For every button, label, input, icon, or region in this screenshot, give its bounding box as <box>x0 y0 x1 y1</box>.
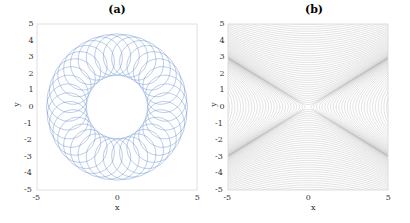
y-tick-label: 4 <box>29 37 34 45</box>
x-tick-label: 5 <box>386 194 391 202</box>
y-tick-label: 3 <box>220 53 225 61</box>
panel-a: (a) x y 543210-1-2-3-4-5-505 <box>0 0 205 223</box>
y-tick-label: -5 <box>24 186 32 194</box>
y-axis-label: y <box>12 102 21 107</box>
y-tick-label: -1 <box>215 120 223 128</box>
y-tick-label: -2 <box>215 136 223 144</box>
y-tick-label: 2 <box>220 70 225 78</box>
x-axis-label: x <box>311 203 316 212</box>
x-axis-label: x <box>115 203 120 212</box>
y-tick-label: 5 <box>220 20 225 28</box>
y-tick-label: 0 <box>29 103 34 111</box>
y-tick-label: -2 <box>24 136 32 144</box>
y-tick-label: -5 <box>215 186 223 194</box>
y-tick-label: 1 <box>29 86 34 94</box>
y-axis-label: y <box>209 102 218 107</box>
y-tick-label: -3 <box>24 153 32 161</box>
contour-plot <box>205 0 410 223</box>
x-tick-label: 0 <box>306 194 311 202</box>
panel-b: (b) x y 543210-1-2-3-4-5-505 <box>205 0 410 223</box>
x-tick-label: 5 <box>195 194 200 202</box>
y-tick-label: -4 <box>215 169 223 177</box>
y-tick-label: 2 <box>29 70 34 78</box>
x-tick-label: -5 <box>32 194 40 202</box>
y-tick-label: 0 <box>220 103 225 111</box>
y-tick-label: 5 <box>29 20 34 28</box>
y-tick-label: 4 <box>220 37 225 45</box>
y-tick-label: -3 <box>215 153 223 161</box>
y-tick-label: -4 <box>24 169 32 177</box>
y-tick-label: 1 <box>220 86 225 94</box>
y-tick-label: 3 <box>29 53 34 61</box>
x-tick-label: -5 <box>223 194 231 202</box>
y-tick-label: -1 <box>24 120 32 128</box>
x-tick-label: 0 <box>115 194 120 202</box>
